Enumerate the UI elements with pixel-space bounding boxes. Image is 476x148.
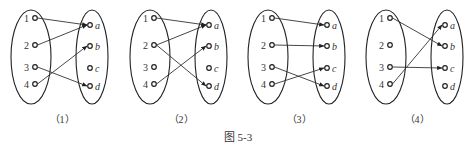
- codomain-point: [325, 84, 330, 89]
- domain-point: [388, 82, 393, 87]
- diagram-caption: （4）: [405, 114, 430, 125]
- diagram-caption: （1）: [50, 114, 75, 125]
- codomain-label: b: [332, 41, 337, 52]
- codomain-point: [443, 66, 448, 71]
- domain-label: 4: [379, 79, 384, 90]
- mapping-diagram-4: 1234abcd（4）: [366, 10, 463, 125]
- codomain-point: [443, 44, 448, 49]
- mapping-diagram-1: 1234abcd（1）: [11, 10, 108, 125]
- domain-set-ellipse: [248, 10, 288, 104]
- domain-point: [33, 43, 38, 48]
- domain-point: [152, 16, 157, 21]
- codomain-point: [207, 44, 212, 49]
- codomain-point: [325, 66, 330, 71]
- domain-label: 1: [261, 13, 266, 24]
- domain-label: 1: [24, 13, 29, 24]
- domain-label: 2: [379, 40, 384, 51]
- codomain-point: [207, 84, 212, 89]
- codomain-label: b: [450, 41, 455, 52]
- domain-point: [270, 65, 275, 70]
- domain-label: 4: [261, 79, 266, 90]
- diagram-caption: （3）: [287, 114, 312, 125]
- codomain-label: c: [214, 63, 219, 74]
- domain-point: [388, 16, 393, 21]
- mapping-arrow-2-to-b: [275, 45, 325, 46]
- codomain-point: [88, 84, 93, 89]
- domain-point: [152, 82, 157, 87]
- codomain-point: [88, 66, 93, 71]
- mapping-diagram-3: 1234abcd（3）: [248, 10, 345, 125]
- domain-label: 3: [143, 62, 148, 73]
- domain-label: 2: [261, 40, 266, 51]
- codomain-point: [443, 23, 448, 28]
- domain-point: [388, 43, 393, 48]
- domain-label: 2: [143, 40, 148, 51]
- domain-label: 2: [24, 40, 29, 51]
- codomain-label: c: [95, 63, 100, 74]
- mapping-arrow-2-to-a: [157, 25, 207, 45]
- domain-label: 4: [24, 79, 29, 90]
- codomain-label: c: [332, 63, 337, 74]
- domain-point: [270, 16, 275, 21]
- codomain-label: d: [450, 81, 456, 92]
- mapping-arrow-4-to-b: [38, 46, 88, 84]
- domain-point: [270, 43, 275, 48]
- codomain-label: b: [214, 41, 219, 52]
- mapping-arrow-3-to-d: [275, 67, 325, 86]
- codomain-label: a: [214, 20, 219, 31]
- codomain-label: d: [332, 81, 338, 92]
- mapping-arrow-3-to-d: [38, 67, 88, 86]
- domain-set-ellipse: [366, 10, 406, 104]
- codomain-label: a: [450, 20, 455, 31]
- domain-label: 1: [379, 13, 384, 24]
- codomain-point: [325, 44, 330, 49]
- codomain-point: [207, 66, 212, 71]
- domain-point: [270, 82, 275, 87]
- diagram-caption: （2）: [169, 114, 194, 125]
- domain-point: [33, 65, 38, 70]
- codomain-label: b: [95, 41, 100, 52]
- domain-label: 3: [379, 62, 384, 73]
- codomain-label: a: [332, 20, 337, 31]
- mapping-arrow-4-to-a: [393, 25, 443, 84]
- domain-label: 1: [143, 13, 148, 24]
- codomain-point: [88, 44, 93, 49]
- codomain-point: [207, 23, 212, 28]
- mapping-diagrams-canvas: 1234abcd（1）1234abcd（2）1234abcd（3）1234abc…: [0, 0, 476, 148]
- codomain-label: d: [95, 81, 101, 92]
- domain-point: [33, 16, 38, 21]
- domain-label: 3: [261, 62, 266, 73]
- mapping-figure: 1234abcd（1）1234abcd（2）1234abcd（3）1234abc…: [0, 0, 476, 148]
- domain-point: [33, 82, 38, 87]
- codomain-label: a: [95, 20, 100, 31]
- codomain-point: [88, 23, 93, 28]
- codomain-point: [443, 84, 448, 89]
- mapping-arrow-2-to-a: [38, 25, 88, 45]
- domain-label: 3: [24, 62, 29, 73]
- domain-label: 4: [143, 79, 148, 90]
- mapping-arrow-3-to-c: [393, 67, 443, 68]
- mapping-arrow-4-to-c: [275, 68, 325, 84]
- codomain-label: c: [450, 63, 455, 74]
- figure-caption: 图 5-3: [224, 131, 253, 143]
- mapping-arrow-1-to-b: [393, 18, 443, 46]
- mapping-diagram-2: 1234abcd（2）: [130, 10, 227, 125]
- domain-point: [152, 43, 157, 48]
- domain-point: [152, 65, 157, 70]
- domain-point: [388, 65, 393, 70]
- codomain-label: d: [214, 81, 220, 92]
- codomain-point: [325, 23, 330, 28]
- domain-set-ellipse: [130, 10, 170, 104]
- domain-set-ellipse: [11, 10, 51, 104]
